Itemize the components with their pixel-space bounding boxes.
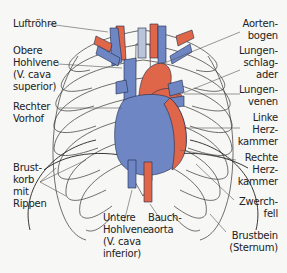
label-bauchaorta: Bauch- aorta: [148, 212, 182, 236]
label-brustkorb: Brust- korb mit Rippen: [13, 162, 47, 210]
label-obere-hohlvene: Obere Hohlvene (V. cava superior): [13, 45, 59, 93]
label-rechte-herzkammer: Rechte Herz- kammer: [238, 152, 278, 188]
label-luftroehre: Luftröhre: [13, 18, 57, 30]
label-brustbein: Brustbein (Sternum): [229, 230, 278, 254]
label-lungenvenen: Lungen- venen: [239, 84, 278, 108]
label-aortenbogen: Aorten- bogen: [242, 18, 278, 42]
label-rechter-vorhof: Rechter Vorhof: [13, 101, 50, 125]
heart-icon: [94, 24, 194, 202]
label-linke-herzkammer: Linke Herz- kammer: [238, 112, 278, 148]
label-zwerchfell: Zwerch- fell: [239, 196, 278, 220]
label-lungenschlagader: Lungen- schlag- ader: [239, 45, 278, 81]
label-untere-hohlvene: Untere Hohlvene (V. cava inferior): [103, 212, 149, 260]
anatomy-diagram: Luftröhre Obere Hohlvene (V. cava superi…: [0, 0, 287, 273]
